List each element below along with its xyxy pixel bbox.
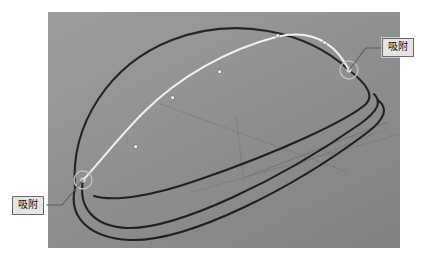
- control-point[interactable]: [276, 34, 279, 37]
- modeling-viewport[interactable]: [48, 12, 400, 248]
- control-point[interactable]: [134, 145, 137, 148]
- viewport-background: [48, 12, 400, 248]
- snap-callout-left-label: 吸附: [18, 199, 38, 210]
- snap-point-right-icon: [346, 67, 351, 72]
- control-point[interactable]: [218, 70, 221, 73]
- control-point[interactable]: [323, 41, 326, 44]
- screenshot-root: 吸附 吸附: [0, 0, 435, 262]
- snap-callout-right: 吸附: [382, 38, 414, 57]
- snap-callout-right-label: 吸附: [388, 41, 408, 52]
- snap-callout-left: 吸附: [12, 196, 44, 215]
- scene-geometry: [48, 12, 400, 248]
- snap-point-left-icon: [80, 177, 85, 182]
- control-point[interactable]: [171, 96, 174, 99]
